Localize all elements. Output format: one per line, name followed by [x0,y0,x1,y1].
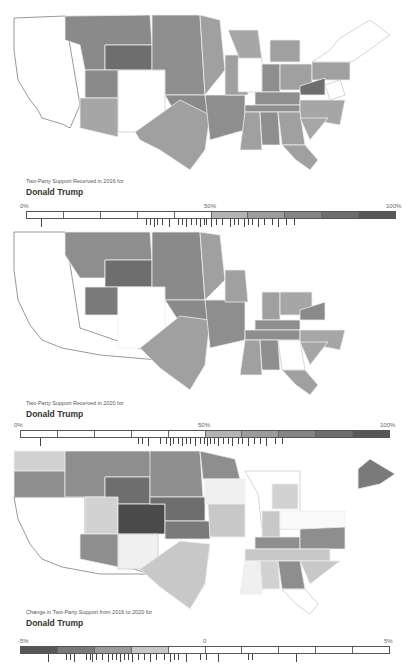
scale-segment [132,647,169,653]
state-tick [40,438,41,446]
panel-2020: Two-Party Support Received in 2020 for D… [0,230,415,420]
caption-subtitle: Two-Party Support Received in 2016 for [26,178,124,184]
state-tick [234,219,235,225]
state-tick [218,438,219,446]
scale-mid-label: 50% [204,203,216,209]
state-tick [214,438,215,444]
state-tick [160,438,161,444]
scale-segment [248,212,285,218]
state-tick [150,654,151,662]
state-tick [228,438,229,444]
state-tick [157,219,158,225]
state-tick [264,219,265,225]
state-tick [178,219,179,225]
state-tick [120,654,121,662]
state-tick [173,438,174,444]
scale-segment [242,431,279,437]
scale-segment [21,431,58,437]
panel-2016: Two-Party Support Received in 2016 for D… [0,0,415,215]
state-tick [195,438,196,446]
caption-2016: Two-Party Support Received in 2016 for D… [26,178,124,197]
caption-subtitle: Two-Party Support Received in 2020 for [26,400,124,406]
state-value-ticks [20,654,390,664]
scale-segment [206,431,243,437]
state-tick [174,654,175,660]
state-tick [200,219,201,227]
scale-min-label: -5% [18,638,29,644]
scale-segment [95,647,132,653]
scale-segment [58,431,95,437]
state-tick [178,654,179,660]
scale-segment [322,212,359,218]
color-scale-bar [26,211,396,219]
state-tick [138,438,139,444]
state-tick [102,654,103,660]
scale-segment [353,431,389,437]
legend-scale-2020: 0% 50% 100% [20,422,390,450]
state-tick [66,654,67,660]
state-tick [272,219,273,225]
state-tick [164,654,165,660]
scale-segment [316,431,353,437]
scale-segment [132,431,169,437]
scale-segment [138,212,175,218]
state-tick [296,654,297,662]
state-tick [48,654,49,662]
state-tick [169,219,170,227]
state-tick [182,438,183,446]
state-tick [108,654,109,662]
state-tick [86,654,87,660]
state-tick [218,654,219,662]
scale-segment [279,647,316,653]
scale-mid-label: 0 [203,638,206,644]
state-tick [275,438,276,444]
state-tick [41,219,42,227]
state-tick [294,219,295,225]
state-tick [282,438,283,444]
legend-scale-2016: 0% 50% 100% [26,203,396,231]
scale-segment [95,431,132,437]
scale-segment [169,431,206,437]
state-tick [148,438,149,446]
state-tick [162,219,163,225]
state-tick [92,654,93,662]
state-tick [206,219,207,225]
state-tick [210,438,211,444]
scale-segment [169,647,206,653]
state-tick [248,438,249,446]
scale-segment [27,212,64,218]
state-tick [200,438,201,444]
state-tick [124,654,125,660]
state-tick [254,438,255,444]
scale-segment [212,212,249,218]
state-tick [182,219,183,225]
state-tick [112,654,113,660]
state-tick [242,438,243,444]
state-tick [252,654,253,660]
state-tick [170,438,171,446]
state-tick [142,438,143,444]
scale-segment [64,212,101,218]
state-tick [150,219,151,225]
state-tick [96,654,97,660]
state-tick [190,438,191,444]
state-tick [200,654,201,660]
state-tick [222,219,223,225]
state-tick [244,219,245,227]
state-tick [170,654,171,662]
state-tick [196,219,197,225]
state-tick [166,438,167,444]
state-tick [260,438,261,444]
state-tick [204,219,205,225]
caption-candidate: Donald Trump [26,618,152,628]
scale-max-label: 100% [386,203,401,209]
scale-segment [359,212,395,218]
state-tick [211,219,212,227]
state-tick [186,654,187,662]
scale-segment [279,431,316,437]
state-tick [156,654,157,660]
panel-change: Change in Two-Party Support from 2016 to… [0,449,415,649]
state-tick [230,219,231,227]
state-tick [128,654,129,660]
state-tick [238,438,239,444]
